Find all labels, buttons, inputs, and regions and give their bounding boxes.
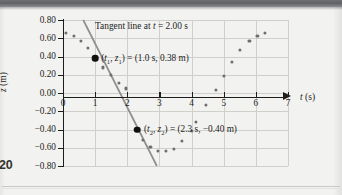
x-axis-tick	[127, 92, 128, 97]
y-axis-tick	[58, 166, 64, 167]
y-axis-tick-label: 0.60	[40, 34, 56, 43]
y-axis-tick	[58, 148, 64, 149]
x-axis-tick	[192, 92, 193, 97]
y-axis-tick-label: −0.60	[34, 143, 56, 152]
x-axis-tick-label: 0	[53, 99, 73, 108]
y-axis-tick-label: −0.20	[34, 107, 56, 116]
x-axis-tick-label: 5	[214, 99, 234, 108]
gridline-horizontal	[63, 166, 288, 167]
tangent-line	[63, 20, 288, 166]
x-axis-tick-label: 6	[246, 99, 266, 108]
y-axis-tick-label: 0.40	[40, 52, 56, 61]
x-axis-tick	[95, 92, 96, 97]
x-axis-tick	[288, 92, 289, 97]
x-axis-tick	[256, 92, 257, 97]
annotation-point-1: (t1, z1) = (1.0 s, 0.38 m)	[101, 53, 189, 67]
highlighted-data-point	[92, 55, 99, 62]
y-axis-tick-label: −0.80	[34, 162, 56, 171]
x-axis-tick	[159, 92, 160, 97]
y-axis-tick	[58, 75, 64, 76]
tangent-line-caption: Tangent line at t = 2.00 s	[95, 21, 188, 31]
x-axis-title: t (s)	[300, 92, 315, 102]
y-axis-tick-label: 0.00	[40, 89, 56, 98]
y-axis-tick-label: 0.80	[40, 16, 56, 25]
y-axis-tick	[58, 130, 64, 131]
annotation-point-2: (t2, z2) = (2.3 s, −0.40 m)	[144, 124, 237, 138]
y-axis-tick	[58, 111, 64, 112]
x-axis-tick-label: 2	[117, 99, 137, 108]
highlighted-data-point	[134, 126, 141, 133]
y-axis-title: z (m)	[0, 72, 8, 92]
y-axis-tick-label: −0.40	[34, 125, 56, 134]
x-axis-tick	[63, 92, 64, 97]
x-axis-tick-label: 7	[278, 99, 298, 108]
y-axis-tick	[58, 38, 64, 39]
x-axis-tick-label: 3	[149, 99, 169, 108]
y-axis-tick	[58, 20, 64, 21]
x-axis-tick-label: 1	[85, 99, 105, 108]
x-axis-tick	[224, 92, 225, 97]
x-axis-tick-label: 4	[182, 99, 202, 108]
y-axis-tick-label: 0.20	[40, 70, 56, 79]
plot-area	[63, 20, 288, 166]
figure-scatter-plot: 0.800.600.400.200.00−0.20−0.40−0.60−0.80…	[0, 0, 342, 195]
y-axis-tick	[58, 57, 64, 58]
